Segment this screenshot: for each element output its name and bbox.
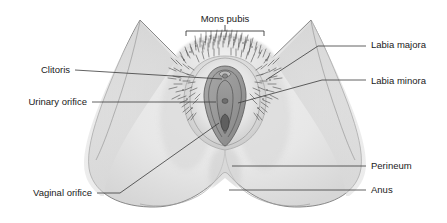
label-labia-minora: Labia minora <box>371 75 427 86</box>
label-mons-pubis: Mons pubis <box>201 13 250 24</box>
label-clitoris: Clitoris <box>41 64 70 75</box>
label-perineum: Perineum <box>371 160 412 171</box>
label-anus: Anus <box>371 184 393 195</box>
label-vaginal-orifice: Vaginal orifice <box>33 187 92 198</box>
label-urinary-orifice: Urinary orifice <box>28 96 87 107</box>
urinary-orifice-structure <box>222 99 228 104</box>
diagram-canvas: Mons pubis Labia majora Labia minora Per… <box>0 0 447 223</box>
anatomical-figure: Mons pubis Labia majora Labia minora Per… <box>0 0 447 223</box>
vaginal-orifice-structure <box>221 114 229 131</box>
label-labia-majora: Labia majora <box>371 39 427 50</box>
